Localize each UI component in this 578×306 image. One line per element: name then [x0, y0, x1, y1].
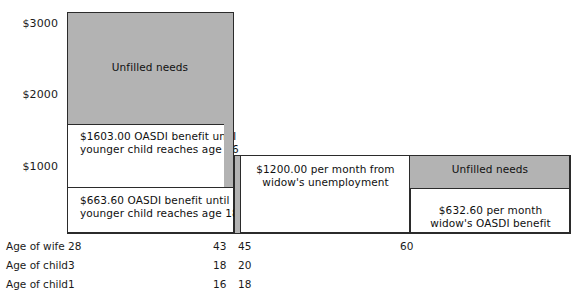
baseline-middle: [234, 233, 411, 234]
baseline-right: [410, 233, 571, 234]
segment-divider-45: [234, 155, 235, 233]
segment4-right-edge: [570, 155, 571, 234]
chart-canvas: $3000 $2000 $1000 Unfilled needs $1603.0…: [0, 0, 578, 306]
unfilled-needs-step-region: [224, 124, 234, 188]
unfilled-needs-right-label: Unfilled needs: [410, 163, 570, 176]
age-child-older-18: 18: [213, 259, 226, 271]
tick-line-age-60: [410, 189, 411, 234]
y-axis-tick-2000: $2000: [4, 88, 58, 101]
age-child-younger-1: 1: [68, 278, 75, 290]
benefit-632-label: $632.60 per month widow's OASDI benefit: [411, 204, 570, 230]
age-child-older-3: 3: [68, 259, 75, 271]
age-child-younger-16: 16: [213, 278, 226, 290]
y-axis-tick-1000: $1000: [4, 160, 58, 173]
benefit-663-label: $663.60 OASDI benefit until younger chil…: [80, 194, 250, 220]
unfilled-needs-left-label: Unfilled needs: [67, 61, 233, 74]
age-child-older-20: 20: [238, 259, 251, 271]
benefit-1200-label: $1200.00 per month from widow's unemploy…: [244, 163, 407, 189]
age-child-younger-18: 18: [238, 278, 251, 290]
age-wife-43: 43: [213, 240, 226, 252]
age-wife-28: 28: [68, 240, 81, 252]
baseline-left: [67, 233, 235, 234]
benefit-1603-label: $1603.00 OASDI benefit until younger chi…: [80, 130, 240, 156]
age-wife-60: 60: [400, 240, 413, 252]
segment1-left-edge: [67, 12, 68, 233]
age-wife-45: 45: [238, 240, 251, 252]
y-axis-tick-3000: $3000: [4, 17, 58, 30]
